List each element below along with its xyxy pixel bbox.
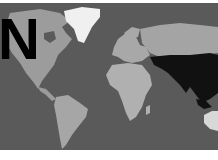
asia-highlighted — [150, 53, 218, 103]
australia — [204, 111, 218, 131]
south-america — [54, 95, 88, 149]
africa — [106, 63, 152, 121]
northern-asia — [140, 23, 218, 57]
overlay-letter: N — [0, 10, 38, 68]
